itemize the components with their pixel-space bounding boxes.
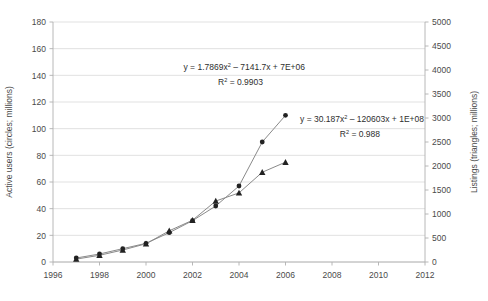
y-axis-right-tick-label: 4500 [432,41,451,51]
y-axis-left-tick-label: 140 [32,71,46,81]
x-axis-tick-label: 1998 [90,270,109,280]
x-axis-tick-label: 2000 [137,270,156,280]
x-axis-tick-label: 2002 [183,270,202,280]
y-axis-right-tick-label: 1000 [432,209,451,219]
y-axis-left-tick-label: 120 [32,97,46,107]
y-axis-left-tick-label: 80 [37,151,47,161]
x-axis-tick-label: 2004 [230,270,249,280]
y-axis-left-title: Active users (circles; millions) [4,86,14,198]
y-axis-right-tick-label: 0 [432,257,437,267]
data-point-circle [283,113,288,118]
listings-r-squared: R2 = 0.988 [340,129,380,139]
x-axis-tick-label: 1996 [44,270,63,280]
data-point-circle [213,204,218,209]
listings-equation: y = 30.187x2 – 120603x + 1E+08 [300,114,424,124]
chart-background [0,0,488,301]
y-axis-left-tick-label: 60 [37,177,47,187]
y-axis-right-tick-label: 4000 [432,65,451,75]
data-point-circle [260,140,265,145]
y-axis-right-tick-label: 1500 [432,185,451,195]
data-point-circle [237,184,242,189]
y-axis-left-tick-label: 0 [41,257,46,267]
y-axis-left-tick-label: 160 [32,44,46,54]
y-axis-left-tick-label: 100 [32,124,46,134]
y-axis-right-tick-label: 3500 [432,89,451,99]
y-axis-right-tick-label: 5000 [432,17,451,27]
x-axis-tick-label: 2012 [416,270,435,280]
x-axis-tick-label: 2006 [276,270,295,280]
users-equation: y = 1.7869x2 – 7141.7x + 7E+06 [183,62,305,72]
y-axis-right-title: Listings (triangles; millions) [469,91,479,193]
x-axis-tick-labels: 199619982000200220042006200820102012 [44,270,435,280]
y-axis-left-tick-label: 180 [32,17,46,27]
y-axis-right-tick-label: 3000 [432,113,451,123]
y-axis-right-tick-label: 2000 [432,161,451,171]
x-axis-tick-label: 2008 [323,270,342,280]
y-axis-left-tick-label: 20 [37,231,47,241]
y-axis-right-tick-label: 500 [432,233,446,243]
y-axis-left-tick-label: 40 [37,204,47,214]
dual-axis-line-chart: 199619982000200220042006200820102012 020… [0,0,488,301]
chart-container: 199619982000200220042006200820102012 020… [0,0,488,301]
y-axis-right-tick-label: 2500 [432,137,451,147]
x-axis-tick-label: 2010 [369,270,388,280]
